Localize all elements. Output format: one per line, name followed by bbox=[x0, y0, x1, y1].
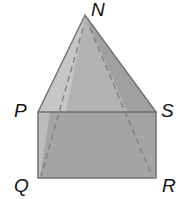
vertex-label-n: N bbox=[91, 0, 105, 19]
vertex-label-r: R bbox=[162, 176, 176, 195]
rectangle-face bbox=[38, 112, 156, 178]
vertex-label-p: P bbox=[14, 101, 27, 120]
pyramid-figure bbox=[0, 0, 187, 199]
vertex-label-s: S bbox=[161, 101, 174, 120]
pyramid-diagram: N P S Q R bbox=[0, 0, 187, 199]
vertex-label-q: Q bbox=[14, 176, 29, 195]
